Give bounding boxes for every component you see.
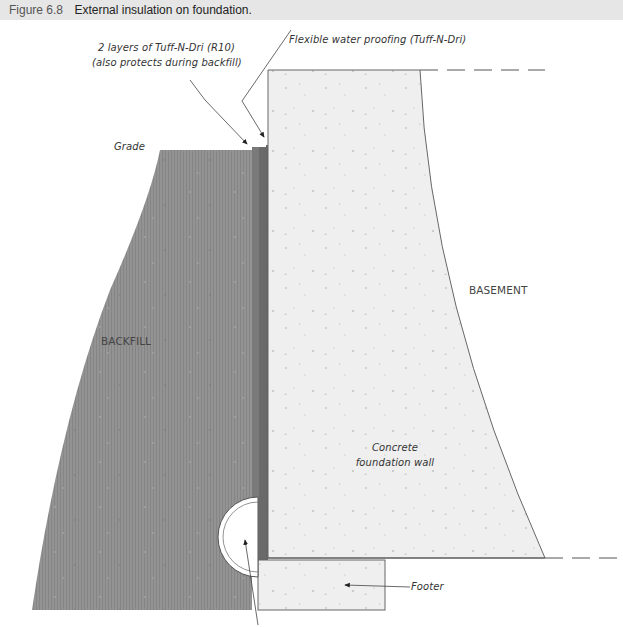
grade-label: Grade — [114, 141, 145, 152]
wall-label-line1: Concrete — [350, 442, 440, 453]
basement-label: BASEMENT — [469, 284, 527, 296]
wall-label-line2: foundation wall — [335, 457, 455, 468]
footer-label: Footer — [411, 581, 444, 592]
waterproofing-label: Flexible water proofing (Tuff-N-Dri) — [289, 34, 466, 45]
footer-block — [258, 560, 385, 610]
insulation-label-line2: (also protects during backfill) — [92, 57, 242, 68]
concrete-foundation-wall — [268, 70, 545, 558]
insulation-board-layer-2 — [259, 147, 266, 560]
foundation-diagram — [0, 0, 623, 627]
insulation-label-line1: 2 layers of Tuff-N-Dri (R10) — [98, 42, 235, 53]
insulation-leader-arrow — [190, 80, 247, 144]
backfill-label: BACKFILL — [101, 335, 151, 347]
